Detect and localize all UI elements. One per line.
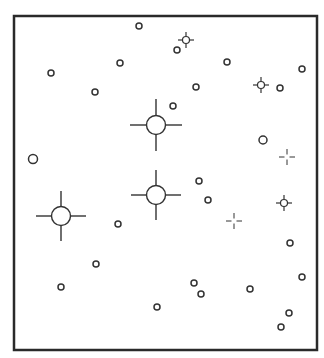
small-star-icon [115, 221, 121, 227]
bright-star-icon [36, 191, 86, 241]
small-star-icon [196, 178, 202, 184]
medium-star-icon [276, 195, 292, 211]
small-star-icon [259, 136, 267, 144]
small-star-icon [247, 286, 253, 292]
faint-crosses-group [226, 149, 295, 229]
star-chart-canvas [0, 0, 324, 358]
small-star-icon [29, 155, 38, 164]
medium-star-icon [253, 77, 269, 93]
small-star-icon [277, 85, 283, 91]
small-star-icon [299, 274, 305, 280]
small-stars-group [29, 23, 306, 330]
small-star-icon [224, 59, 230, 65]
small-star-icon [58, 284, 64, 290]
faint-star-cross-icon [226, 213, 242, 229]
small-star-icon [286, 310, 292, 316]
chart-frame [14, 16, 317, 350]
small-star-icon [92, 89, 98, 95]
small-star-icon [191, 280, 197, 286]
bright-star-icon [131, 170, 181, 220]
small-star-icon [136, 23, 142, 29]
small-star-icon [299, 66, 305, 72]
star-chart [0, 0, 324, 358]
medium-stars-group [178, 32, 292, 211]
faint-star-cross-icon [279, 149, 295, 165]
small-star-icon [154, 304, 160, 310]
small-star-icon [278, 324, 284, 330]
small-star-icon [170, 103, 176, 109]
medium-star-icon [178, 32, 194, 48]
small-star-icon [198, 291, 204, 297]
bright-stars-group [36, 99, 182, 241]
small-star-icon [117, 60, 123, 66]
small-star-icon [287, 240, 293, 246]
small-star-icon [93, 261, 99, 267]
small-star-icon [174, 47, 180, 53]
small-star-icon [193, 84, 199, 90]
bright-star-icon [130, 99, 182, 151]
small-star-icon [205, 197, 211, 203]
small-star-icon [48, 70, 54, 76]
